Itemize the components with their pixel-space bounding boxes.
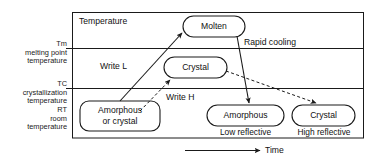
node-start-shape bbox=[80, 101, 160, 131]
node-crystal-end-sublabel: High reflective bbox=[289, 127, 359, 137]
process-label-write-h: Write H bbox=[166, 92, 195, 102]
phase-change-temperature-diagram: Tm melting point temperature TC crystall… bbox=[0, 0, 374, 161]
process-label-write-l: Write L bbox=[100, 61, 127, 71]
node-crystal-end-shape bbox=[292, 105, 355, 126]
node-molten-shape bbox=[183, 16, 245, 37]
time-axis-label: Time bbox=[265, 145, 284, 155]
chart-title-temperature: Temperature bbox=[79, 16, 127, 26]
node-crystal-mid-shape bbox=[164, 57, 227, 78]
node-amorphous-end-sublabel: Low reflective bbox=[203, 127, 288, 137]
node-amorphous-end-shape bbox=[207, 105, 284, 126]
process-label-rapid-cooling: Rapid cooling bbox=[244, 37, 296, 47]
